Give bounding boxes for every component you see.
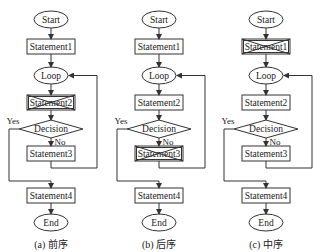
start-label: Start bbox=[150, 15, 168, 25]
end-label: End bbox=[258, 218, 274, 228]
caption-a: (a) 前序 bbox=[1, 236, 101, 251]
s4-label: Statement4 bbox=[245, 191, 288, 201]
end-label: End bbox=[43, 218, 59, 228]
s1-label: Statement1 bbox=[30, 42, 73, 52]
s4-label: Statement4 bbox=[30, 191, 73, 201]
caption-c: (c) 中序 bbox=[216, 236, 316, 251]
flowchart-panel-a: StartStatement1Statement2Statement3State… bbox=[6, 11, 97, 231]
yes-label: Yes bbox=[221, 116, 235, 126]
decision-label: Decision bbox=[142, 124, 176, 134]
s2-label: Statement2 bbox=[138, 98, 181, 108]
no-label: No bbox=[270, 137, 281, 147]
caption-b: (b) 后序 bbox=[109, 236, 209, 251]
end-label: End bbox=[151, 218, 167, 228]
s3-label: Statement3 bbox=[245, 149, 288, 159]
flowchart-panel-b: StartStatement1Statement2Statement3State… bbox=[114, 11, 205, 231]
yes-label: Yes bbox=[6, 116, 20, 126]
s1-label: Statement1 bbox=[138, 42, 181, 52]
loop-label: Loop bbox=[41, 71, 61, 81]
decision-label: Decision bbox=[34, 124, 68, 134]
flowchart-diagram: StartStatement1Statement2Statement3State… bbox=[0, 0, 320, 252]
start-label: Start bbox=[257, 15, 275, 25]
s2-label: Statement2 bbox=[245, 98, 288, 108]
flowchart-panel-c: StartStatement1Statement2Statement3State… bbox=[221, 11, 312, 231]
loop-label: Loop bbox=[256, 71, 276, 81]
no-label: No bbox=[55, 137, 66, 147]
yes-label: Yes bbox=[114, 116, 128, 126]
s3-label: Statement3 bbox=[30, 149, 73, 159]
loop-label: Loop bbox=[149, 71, 169, 81]
decision-label: Decision bbox=[249, 124, 283, 134]
no-label: No bbox=[163, 137, 174, 147]
start-label: Start bbox=[42, 15, 60, 25]
s4-label: Statement4 bbox=[138, 191, 181, 201]
